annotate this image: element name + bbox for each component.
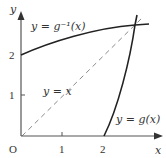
y-tick-label-1: 1 [9,89,15,101]
y-axis-arrow-icon [18,11,25,20]
x-tick-label-1: 1 [59,143,65,155]
identity-line-label: y = x [42,85,72,98]
function-curve-label: y = g(x) [115,113,160,126]
x-axis-arrow-icon [154,133,163,140]
inverse-curve-label: y = g⁻¹(x) [30,20,85,33]
y-axis-label: y [9,3,17,16]
x-tick-label-2: 2 [100,143,106,155]
function-inverse-diagram: y x O 1 2 1 2 y = g⁻¹(x) y = x y = g(x) [0,0,166,158]
y-tick-label-2: 2 [9,49,15,61]
origin-label: O [9,143,17,155]
x-axis-label: x [155,144,162,157]
